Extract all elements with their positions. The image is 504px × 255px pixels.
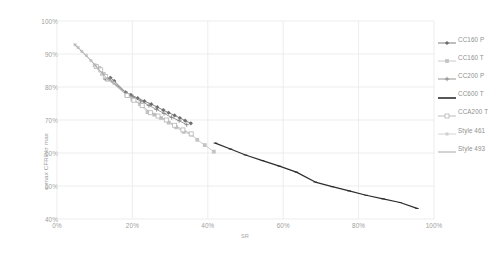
legend-label: Style 461 (457, 127, 485, 134)
grid-lines (57, 21, 434, 219)
data-point-marker (183, 119, 187, 123)
legend-item[interactable]: CC600 T (437, 85, 504, 103)
data-point-marker (181, 128, 185, 132)
data-point-marker (203, 143, 207, 147)
legend-label: CC600 T (457, 90, 484, 97)
data-point-marker (125, 94, 129, 98)
data-point-marker (445, 59, 449, 63)
data-point-marker (173, 123, 177, 127)
legend-item[interactable]: CCA200 T (437, 103, 504, 121)
x-axis-tick-label: 0% (37, 222, 77, 229)
legend-marker-square-icon (437, 52, 457, 62)
legend-item[interactable]: CC160 T (437, 48, 504, 66)
x-axis-title: SR (55, 233, 435, 239)
x-axis-tick-label: 100% (414, 222, 454, 229)
data-point-marker (184, 122, 188, 126)
data-point-marker (212, 150, 216, 154)
legend-label: CC200 P (457, 72, 484, 79)
data-point-marker (189, 132, 193, 136)
x-axis-tick-label: 20% (112, 222, 152, 229)
legend-label: CCA200 T (457, 108, 488, 115)
series-cc160-p (104, 76, 193, 126)
data-point-marker (445, 41, 449, 45)
legend-item[interactable]: CC200 P (437, 66, 504, 84)
data-point-marker (161, 108, 165, 112)
legend-marker-diamond-icon (437, 34, 457, 44)
data-point-marker (195, 138, 199, 142)
data-point-marker (140, 103, 144, 107)
legend-item[interactable]: Style 461 (437, 121, 504, 139)
legend-item[interactable]: CC160 P (437, 30, 504, 48)
plot-area (0, 0, 504, 255)
legend-marker-line-icon (437, 89, 457, 99)
data-point-marker (445, 77, 449, 81)
data-point-marker (156, 114, 160, 118)
data-point-marker (189, 121, 193, 125)
data-point-marker (132, 98, 136, 102)
data-point-marker (178, 116, 182, 120)
x-axis-tick-label: 80% (339, 222, 379, 229)
x-axis-tick-label: 40% (188, 222, 228, 229)
x-axis-tick-label: 60% (263, 222, 303, 229)
legend-marker-cross-icon (437, 70, 457, 80)
legend-label: CC160 T (457, 54, 484, 61)
chart-container: σ max CFRP/σ max 40%50%60%70%80%90%100% … (0, 0, 504, 255)
chart-legend: CC160 PCC160 TCC200 PCC600 TCCA200 TStyl… (437, 30, 504, 157)
data-point-marker (446, 133, 449, 136)
legend-marker-square-open-icon (437, 107, 457, 117)
legend-label: Style 493 (457, 145, 485, 152)
legend-marker-plain-line-icon (437, 143, 457, 153)
legend-item[interactable]: Style 493 (437, 139, 504, 157)
data-point-marker (166, 111, 170, 115)
data-point-marker (445, 114, 449, 118)
series-line (106, 78, 191, 124)
data-point-marker (164, 118, 168, 122)
legend-marker-square-small-icon (437, 125, 457, 135)
data-point-marker (148, 111, 152, 115)
legend-label: CC160 P (457, 36, 484, 43)
data-point-marker (173, 113, 177, 117)
data-point-marker (162, 111, 166, 115)
